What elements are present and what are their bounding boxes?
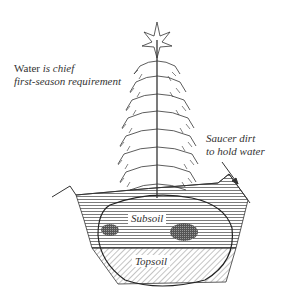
- tree-planting-diagram: Water is chief first-season requirement …: [0, 0, 283, 305]
- subsoil-layer: [76, 174, 248, 248]
- spruce-tree: [118, 22, 198, 198]
- saucer-annotation: Saucer dirt to hold water: [206, 132, 265, 158]
- water-annotation: Water is chief first-season requirement: [14, 62, 121, 88]
- water-annotation-line2: first-season requirement: [14, 75, 121, 88]
- soil-clod-left: [101, 224, 119, 236]
- saucer-annotation-line2: to hold water: [206, 145, 265, 158]
- water-annotation-plain: Water: [14, 62, 43, 74]
- saucer-annotation-line1: Saucer dirt: [206, 132, 265, 145]
- soil-clod-right: [170, 223, 198, 241]
- topsoil-label: Topsoil: [132, 255, 170, 267]
- water-annotation-italic: is chief: [43, 62, 74, 74]
- subsoil-label: Subsoil: [128, 212, 166, 224]
